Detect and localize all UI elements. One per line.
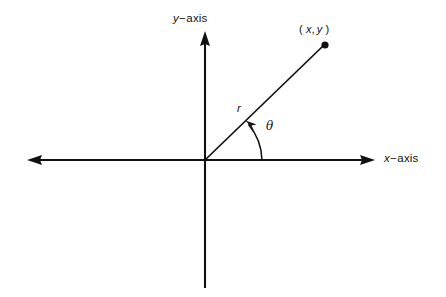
angle-arc-path (249, 125, 263, 161)
point-label-comma: , (312, 23, 315, 35)
x-axis-label-word: axis (397, 152, 418, 164)
polar-coordinates-figure: y−axis x−axis (x,y) r θ (0, 0, 446, 297)
x-axis-right-arrow-icon (360, 155, 375, 165)
y-axis-label: y−axis (173, 13, 208, 25)
radius-ray-line (205, 46, 323, 160)
point-label-close-paren: ) (326, 23, 330, 35)
radius-label: r (237, 103, 241, 115)
point-label-y: y (317, 23, 323, 35)
angle-arc-arrow-icon (246, 121, 257, 132)
x-axis-left-arrow-icon (27, 155, 42, 165)
y-axis-label-word: axis (186, 12, 207, 24)
point-xy-label: (x,y) (299, 24, 329, 35)
y-axis-up-arrow-icon (200, 31, 210, 46)
point-label-open-paren: ( (299, 23, 303, 35)
coordinate-axes-diagram (0, 0, 446, 297)
point-xy-marker (321, 41, 328, 48)
x-axis-label: x−axis (384, 153, 419, 165)
angle-theta-label: θ (266, 120, 273, 132)
